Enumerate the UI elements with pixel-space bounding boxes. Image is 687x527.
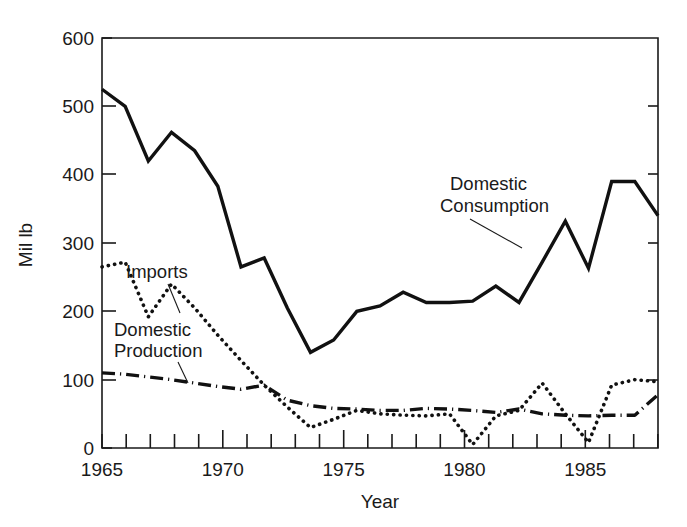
ytick-label-0: 0	[83, 438, 94, 459]
xtick-label-1965: 1965	[81, 459, 123, 480]
annotation-domestic-consumption: Domestic Consumption	[440, 173, 549, 248]
y-axis-title: Mil lb	[15, 223, 36, 267]
x-axis-title: Year	[361, 491, 400, 512]
xtick-label-1980: 1980	[443, 459, 485, 480]
xtick-label-1985: 1985	[564, 459, 606, 480]
annotation-domestic-consumption-line1: Domestic	[450, 173, 527, 194]
ytick-label-500: 500	[62, 96, 94, 117]
line-chart: 600 500 400 300 200 100 0 1965 1970 1975…	[0, 0, 687, 527]
ytick-label-200: 200	[62, 301, 94, 322]
y-axis-ticks-right	[648, 106, 658, 380]
annotation-domestic-production-line1: Domestic	[114, 319, 191, 340]
xtick-label-1970: 1970	[202, 459, 244, 480]
ytick-label-400: 400	[62, 164, 94, 185]
chart-figure: 600 500 400 300 200 100 0 1965 1970 1975…	[0, 0, 687, 527]
series-domestic-consumption	[102, 89, 658, 352]
series-domestic-production	[102, 373, 658, 416]
ytick-label-600: 600	[62, 28, 94, 49]
xtick-label-1975: 1975	[323, 459, 365, 480]
x-axis-ticks	[102, 430, 658, 448]
annotation-domestic-production-line2: Production	[114, 340, 202, 361]
ytick-label-300: 300	[62, 233, 94, 254]
annotation-domestic-consumption-line2: Consumption	[440, 195, 549, 216]
annotation-imports-label: Imports	[126, 261, 188, 282]
ytick-label-100: 100	[62, 370, 94, 391]
